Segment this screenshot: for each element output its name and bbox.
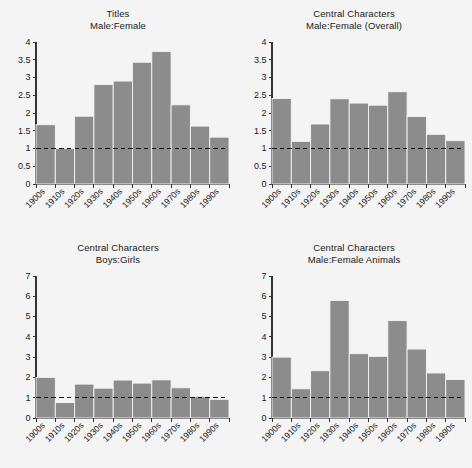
x-axis-tick-label: 1910s [43, 186, 67, 210]
bar [369, 356, 388, 418]
y-axis-tick-label: 7 [25, 271, 30, 281]
chart-panel-titles-male-female: Titles Male:Female 00.511.522.533.541900… [0, 0, 236, 234]
bar [446, 379, 465, 418]
bar [369, 105, 388, 184]
bar [171, 105, 190, 184]
y-axis-tick-label: 3 [25, 72, 30, 82]
chart-panel-central-characters-male-female-overall: Central Characters Male:Female (Overall)… [236, 0, 472, 234]
bar [133, 383, 152, 418]
x-axis-tick-label: 1990s [197, 420, 221, 444]
x-axis-tick-label: 1970s [159, 186, 183, 210]
x-axis-tick-label: 1950s [120, 186, 144, 210]
bar [190, 126, 209, 184]
bar [272, 98, 291, 184]
y-axis-tick-label: 3 [261, 352, 266, 362]
x-axis-tick-label: 1980s [178, 420, 202, 444]
x-axis-tick-label: 1960s [139, 186, 163, 210]
bar [407, 117, 426, 184]
bar [36, 125, 55, 184]
x-axis-tick-label: 1970s [395, 420, 419, 444]
x-axis-tick-label: 1960s [139, 420, 163, 444]
x-axis-tick-label: 1980s [414, 186, 438, 210]
x-axis-tick-label: 1900s [259, 186, 283, 210]
y-axis-tick-label: 3 [25, 352, 30, 362]
bar [152, 380, 171, 418]
chart-panel-central-characters-boys-girls: Central Characters Boys:Girls 0123456719… [0, 234, 236, 468]
x-axis-tick-label: 1900s [23, 186, 47, 210]
bar [446, 141, 465, 184]
y-axis-tick-label: 0 [25, 413, 30, 423]
x-axis-tick-label: 1940s [101, 186, 125, 210]
y-axis-tick-label: 2.5 [18, 90, 31, 100]
x-axis-tick-label: 1900s [23, 420, 47, 444]
x-axis-tick-label: 1990s [433, 420, 457, 444]
bar [311, 371, 330, 418]
x-axis-tick-label: 1940s [337, 186, 361, 210]
x-axis-tick-label: 1950s [120, 420, 144, 444]
x-axis-tick-label: 1990s [197, 186, 221, 210]
x-axis-tick-label: 1960s [375, 420, 399, 444]
x-axis-tick-label: 1950s [356, 420, 380, 444]
y-axis-tick-label: 1.5 [18, 126, 31, 136]
y-axis-tick-label: 0 [261, 179, 266, 189]
y-axis-tick-label: 2 [25, 108, 30, 118]
y-axis-tick-label: 0 [261, 413, 266, 423]
bar [426, 134, 445, 184]
bar [152, 52, 171, 184]
y-axis-tick-label: 2.5 [254, 90, 267, 100]
bar [94, 85, 113, 184]
x-axis-tick-label: 1990s [433, 186, 457, 210]
plot-area: 012345671900s1910s1920s1930s1940s1950s19… [0, 234, 236, 468]
bar [388, 321, 407, 418]
y-axis-tick-label: 3 [261, 72, 266, 82]
plot-area: 00.511.522.533.541900s1910s1920s1930s194… [236, 0, 472, 234]
bar [311, 124, 330, 184]
chart-panel-central-characters-male-female-animals: Central Characters Male:Female Animals 0… [236, 234, 472, 468]
x-axis-tick-label: 1970s [159, 420, 183, 444]
bar [407, 349, 426, 418]
figure-canvas: Titles Male:Female 00.511.522.533.541900… [0, 0, 472, 468]
y-axis-tick-label: 2 [261, 372, 266, 382]
x-axis-tick-label: 1920s [298, 420, 322, 444]
bar [133, 62, 152, 184]
bar [330, 99, 349, 184]
x-axis-tick-label: 1900s [259, 420, 283, 444]
x-axis-tick-label: 1920s [298, 186, 322, 210]
bar [210, 137, 229, 184]
bar [210, 399, 229, 418]
y-axis-tick-label: 3.5 [254, 55, 267, 65]
x-axis-tick-label: 1950s [356, 186, 380, 210]
bar [426, 373, 445, 418]
bar [94, 388, 113, 418]
y-axis-tick-label: 0.5 [254, 161, 267, 171]
plot-area: 00.511.522.533.541900s1910s1920s1930s194… [0, 0, 236, 234]
bar [330, 301, 349, 418]
y-axis-tick-label: 4 [25, 332, 30, 342]
x-axis-tick-label: 1940s [101, 420, 125, 444]
x-axis-tick-label: 1920s [62, 420, 86, 444]
x-axis-tick-label: 1910s [43, 420, 67, 444]
bar [349, 354, 368, 418]
y-axis-tick-label: 0.5 [18, 161, 31, 171]
y-axis-tick-label: 1 [261, 143, 266, 153]
y-axis-tick-label: 6 [261, 291, 266, 301]
bar [75, 384, 94, 418]
x-axis-tick-label: 1980s [414, 420, 438, 444]
y-axis-tick-label: 2 [261, 108, 266, 118]
x-axis-tick-label: 1930s [81, 420, 105, 444]
bar [171, 388, 190, 418]
y-axis-tick-label: 4 [25, 37, 30, 47]
y-axis-tick-label: 2 [25, 372, 30, 382]
x-axis-tick-label: 1960s [375, 186, 399, 210]
x-axis-tick-label: 1910s [279, 420, 303, 444]
y-axis-tick-label: 1 [25, 393, 30, 403]
y-axis-tick-label: 1 [25, 143, 30, 153]
bar [291, 141, 310, 184]
x-axis-tick-label: 1930s [317, 420, 341, 444]
x-axis-tick-label: 1930s [317, 186, 341, 210]
bar [272, 357, 291, 418]
x-axis-tick-label: 1980s [178, 186, 202, 210]
bar [75, 116, 94, 184]
y-axis-tick-label: 3.5 [18, 55, 31, 65]
bar [113, 81, 132, 184]
